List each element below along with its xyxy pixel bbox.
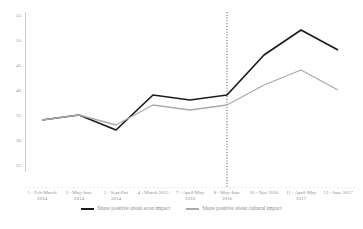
series-line-1 (42, 70, 338, 125)
x-tick-label-year: 2016 (185, 196, 196, 201)
x-tick-label: 8 - May-June (214, 190, 241, 195)
x-tick-label-year: 2016 (222, 196, 233, 201)
x-tick-label: 11 - April-May (286, 190, 317, 195)
legend-swatch-econ-line (81, 208, 94, 210)
y-tick-label: 55 (16, 13, 22, 18)
y-tick-label: 30 (16, 138, 22, 143)
y-tick-label: 25 (16, 163, 22, 168)
legend-item-cultural: Share positive about cultural impact (186, 206, 281, 212)
x-tick-label: 7 - April-May (176, 190, 204, 195)
line-chart-figure: 253035404550551 - Feb-March20142 - May-J… (0, 0, 363, 229)
x-tick-label-year: 2017 (296, 196, 307, 201)
legend-swatch-cultural-line (186, 208, 199, 210)
legend-label-cultural: Share positive about cultural impact (202, 206, 281, 212)
x-tick-label: 2 - May-June (66, 190, 93, 195)
y-tick-label: 50 (16, 38, 22, 43)
x-tick-label-year: 2014 (111, 196, 122, 201)
series-line-0 (42, 30, 338, 130)
x-tick-label: 1 - Feb-March (28, 190, 57, 195)
x-tick-label: 4 - March 2015 (138, 190, 169, 195)
x-tick-label: 3 - Sept-Oct (104, 190, 129, 195)
x-tick-label: 10 - Nov 2016 (249, 190, 279, 195)
legend-label-econ: Share positive about econ impact (97, 206, 170, 212)
x-tick-label-year: 2014 (74, 196, 85, 201)
legend-item-econ: Share positive about econ impact (81, 206, 170, 212)
chart-legend: Share positive about econ impact Share p… (0, 206, 363, 212)
y-tick-label: 35 (16, 113, 22, 118)
y-tick-label: 45 (16, 63, 22, 68)
x-tick-label-year: 2014 (37, 196, 48, 201)
x-tick-label: 13 - June 2017 (323, 190, 353, 195)
y-tick-label: 40 (16, 88, 22, 93)
line-chart: 253035404550551 - Feb-March20142 - May-J… (0, 0, 363, 229)
